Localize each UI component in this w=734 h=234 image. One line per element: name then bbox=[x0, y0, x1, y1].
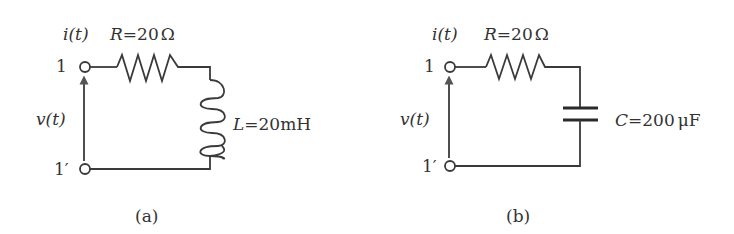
resistor-label-a: R=20Ω bbox=[109, 24, 175, 44]
resistor-b bbox=[486, 55, 550, 79]
voltage-label-b: v(t) bbox=[400, 109, 430, 129]
terminal-1-a bbox=[80, 62, 90, 72]
resistor-label-b: R=20Ω bbox=[483, 24, 549, 44]
wire-top-right-b bbox=[550, 67, 580, 108]
terminal-1prime-label-b: 1′ bbox=[422, 156, 437, 176]
terminal-1-label-b: 1 bbox=[424, 56, 435, 76]
terminal-1prime-a bbox=[80, 164, 90, 174]
capacitor-label-b: C=200μF bbox=[615, 110, 701, 130]
inductor-label-a: L=20mH bbox=[232, 114, 311, 134]
inductor-a bbox=[200, 80, 225, 159]
wire-bottom-b bbox=[455, 120, 580, 166]
terminal-1-label-a: 1 bbox=[56, 56, 67, 76]
terminal-1-b bbox=[445, 62, 455, 72]
circuit-figure: i(t) R=20Ω 1 v(t) 1′ L=20mH (a) i(t) R=2… bbox=[0, 0, 734, 234]
caption-a: (a) bbox=[135, 206, 158, 226]
resistor-a bbox=[117, 55, 183, 81]
circuit-b: i(t) R=20Ω 1 v(t) 1′ C=200μF (b) bbox=[400, 24, 701, 226]
caption-b: (b) bbox=[506, 206, 530, 226]
current-label-a: i(t) bbox=[63, 24, 89, 44]
terminal-1prime-label-a: 1′ bbox=[54, 159, 69, 179]
wire-bottom-a bbox=[90, 156, 210, 169]
circuit-a: i(t) R=20Ω 1 v(t) 1′ L=20mH (a) bbox=[36, 24, 311, 226]
current-label-b: i(t) bbox=[432, 24, 458, 44]
wire-top-right-a bbox=[183, 67, 210, 80]
voltage-label-a: v(t) bbox=[36, 109, 66, 129]
terminal-1prime-b bbox=[445, 161, 455, 171]
